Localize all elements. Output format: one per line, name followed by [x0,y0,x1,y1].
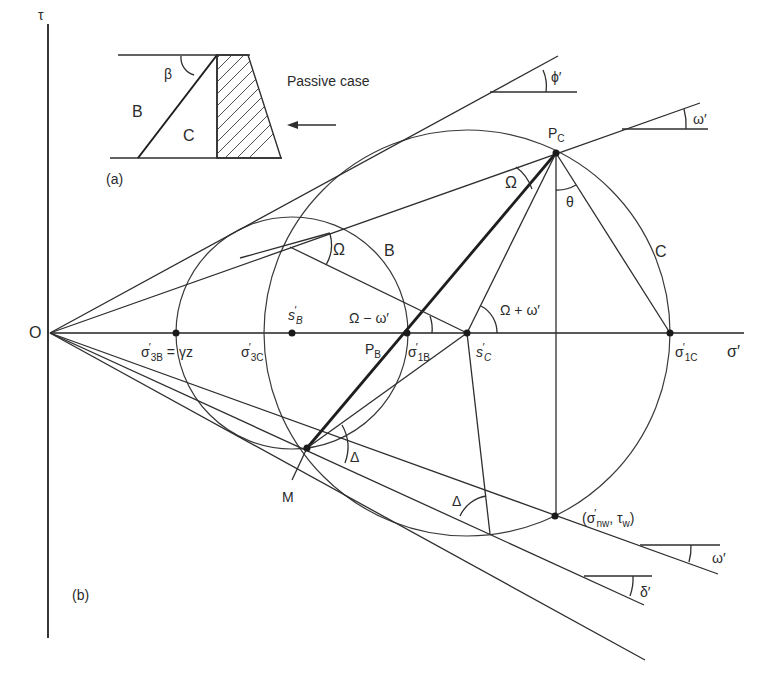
pb-label: PB [365,342,381,360]
sc-to-m-line [307,333,467,448]
pc-point [553,150,560,157]
m-point [304,445,311,452]
omega-bottom-arc [689,545,691,562]
beta-label: β [164,67,172,81]
theta-arc [556,185,576,190]
omega-bottom-angle-label: ω′ [712,551,726,565]
circle-b-label: B [384,243,395,259]
wall-stress-point [552,513,559,520]
sigma-3b-label: σ′3B = γz [141,342,193,363]
tau-axis-label: τ [38,8,44,22]
panel-a-label: (a) [106,172,123,186]
pc-label: PC [548,126,565,144]
region-c-label: C [183,128,195,144]
failure-plane-line [138,55,217,158]
pc-to-m-line [307,153,556,448]
sb-point [289,330,296,337]
sc-to-bottom-line [467,333,490,534]
passive-arrow-head [287,121,298,129]
omega-top-angle-label: ω′ [693,112,707,126]
m-tick [292,448,307,480]
Delta-arc-lower [460,496,486,516]
panel-a-sketch [110,15,392,207]
omega-top-arc [684,109,686,129]
origin-label: O [29,325,41,341]
m-label: M [282,490,294,504]
Omega-angle-pc-label: Ω [505,175,517,191]
pc-to-sigma1c-line [556,153,670,333]
sigma-1c-label: σ′1C [675,342,698,363]
Omega-minus-omega-label: Ω − ω′ [349,311,389,325]
beta-arc [181,56,194,75]
sigma-3b-point [173,330,180,337]
theta-angle-label: θ [566,195,574,209]
Delta-arc-m [342,425,348,463]
omega-ray-b [240,233,330,258]
wall-hatching [200,15,392,207]
Delta-angle-m-label: Δ [350,450,359,464]
region-b-label: B [132,104,143,120]
delta-prime-arc [630,576,633,596]
Omega-minus-omega-arc [430,316,432,333]
sigma-1b-point [404,330,411,337]
retaining-wall [217,55,281,158]
delta-prime-angle-label: δ′ [640,585,650,599]
wall-friction-line-upper [50,103,700,333]
Omega-plus-omega-arc [481,306,497,333]
Omega-arc-b [326,234,331,265]
sigma-1b-label: σ′1B [408,342,430,363]
sigma-3c-label: σ′3C [241,342,264,363]
phi-angle-label: ϕ′ [551,70,561,84]
panel-b-label: (b) [72,588,89,602]
sigma-1c-point [667,330,674,337]
passive-case-label: Passive case [287,74,369,88]
Delta-angle-lower-label: Δ [452,494,461,508]
sigma-axis-label: σ′ [727,344,740,360]
sc-label: s′C [476,342,491,363]
failure-envelope-upper [50,56,558,333]
phi-arc [543,70,546,92]
sc-point [464,330,471,337]
mohr-circle-diagram [0,0,764,685]
sb-label: s′B [288,305,303,326]
wall-line-omega-lower [50,333,718,574]
Omega-plus-omega-label: Ω + ω′ [500,303,540,317]
circle-c-label: C [655,244,667,260]
Omega-angle-b-label: Ω [333,242,345,258]
delta-line [50,333,644,605]
wall-stress-label: (σ′nw, τw) [582,508,634,529]
